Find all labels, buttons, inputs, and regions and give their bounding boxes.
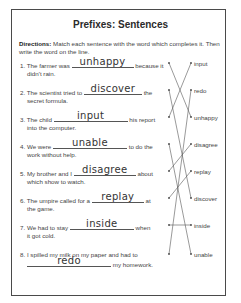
match-line (169, 90, 191, 254)
match-line (169, 144, 191, 254)
match-line (169, 90, 191, 198)
match-line (169, 144, 191, 171)
match-line (169, 171, 191, 198)
matching-lines (0, 0, 241, 303)
